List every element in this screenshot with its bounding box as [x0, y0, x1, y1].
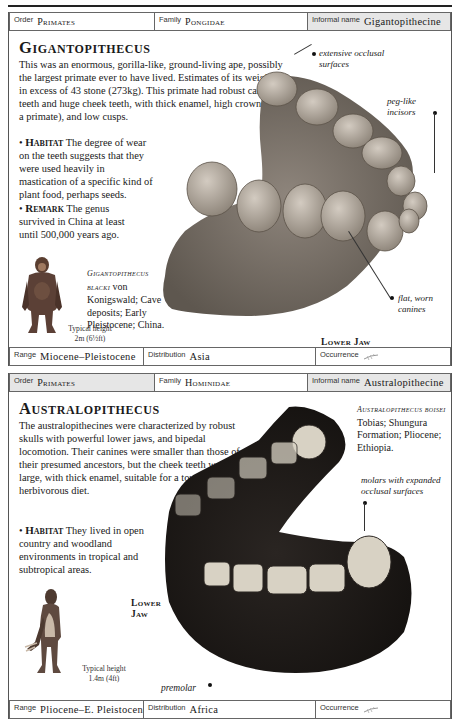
order-value: Primates	[37, 16, 75, 27]
entry-card-australopithecus: Order Primates Family Hominidae Informal…	[8, 373, 452, 719]
habitat-section: • Habitat They lived in open country and…	[19, 524, 149, 576]
order-label: Order	[14, 376, 33, 385]
classification-header: Order Primates Family Hominidae Informal…	[9, 373, 451, 392]
annotation-leader	[434, 113, 435, 173]
genus-title: Australopithecus	[19, 399, 160, 419]
remark-section: • Remark The genus survived in China at …	[19, 202, 127, 241]
family-label: Family	[159, 15, 181, 24]
order-cell: Order Primates	[10, 13, 155, 30]
entry-card-gigantopithecus: Order Primates Family Pongidae Informal …	[8, 12, 452, 366]
order-value: Primates	[37, 377, 75, 388]
distribution-label: Distribution	[148, 350, 186, 359]
annotation-text: extensive occlusal surfaces	[319, 48, 384, 69]
family-label: Family	[159, 376, 181, 385]
range-cell: Range Miocene–Pleistocene	[10, 348, 144, 365]
informal-name-value: Australopithecine	[364, 377, 444, 388]
annotation-dot	[208, 683, 212, 687]
family-cell: Family Pongidae	[155, 13, 308, 30]
fern-frond-icon	[363, 353, 379, 361]
distribution-cell: Distribution Asia	[144, 348, 316, 365]
annotation-dot	[312, 52, 316, 56]
top-rule	[8, 5, 452, 7]
specimen-name: Australopithecus boisei	[357, 405, 446, 414]
annotation-molars: molars with expanded occlusal surfaces	[361, 475, 443, 496]
annotation-premolar-label: premolar	[161, 683, 196, 694]
annotation-occlusal: extensive occlusal surfaces	[319, 48, 389, 69]
annotation-dot	[390, 296, 394, 300]
informal-name-value: Gigantopithecine	[364, 16, 441, 27]
height-label: Typical height	[71, 664, 137, 674]
range-footer: Range Miocene–Pleistocene Distribution A…	[9, 347, 451, 366]
range-value: Pliocene–E. Pleistocene	[40, 704, 144, 715]
annotation-canines: flat, worn canines	[398, 293, 448, 314]
habitat-section: • Habitat The degree of wear on the teet…	[19, 136, 154, 201]
specimen-details: Tobias; Shungura Formation; Pliocene; Et…	[357, 417, 441, 453]
image-label: Lower Jaw	[131, 598, 161, 620]
family-value: Hominidae	[185, 377, 230, 388]
order-cell: Order Primates	[10, 374, 155, 391]
entry-body: Gigantopithecus This was an enormous, go…	[9, 31, 451, 347]
range-label: Range	[14, 350, 36, 359]
australopithecus-figure-icon	[23, 587, 73, 679]
occurrence-cell: Occurrence	[316, 348, 450, 365]
image-label-text: Lower Jaw	[131, 598, 161, 620]
distribution-label: Distribution	[148, 703, 186, 712]
occurrence-label: Occurrence	[320, 350, 359, 359]
annotation-text: peg-like incisors	[387, 96, 416, 117]
occurrence-cell: Occurrence	[316, 701, 450, 718]
annotation-incisors: peg-like incisors	[387, 96, 439, 117]
annotation-leader	[364, 503, 365, 531]
distribution-value: Asia	[190, 351, 210, 362]
annotation-text: premolar	[161, 683, 196, 693]
specimen-caption: Australopithecus boisei Tobias; Shungura…	[357, 403, 452, 454]
occurrence-label: Occurrence	[320, 703, 359, 712]
typical-height: Typical height 1.4m (4ft)	[71, 664, 137, 683]
distribution-cell: Distribution Africa	[144, 701, 316, 718]
height-value: 2m (6½ft)	[59, 334, 121, 344]
habitat-heading: Habitat	[25, 136, 63, 148]
fern-frond-icon	[363, 706, 379, 714]
range-value: Miocene–Pleistocene	[40, 351, 136, 362]
informal-name-label: Informal name	[312, 376, 360, 385]
annotation-leader	[294, 44, 312, 55]
informal-name-cell: Informal name Gigantopithecine	[308, 13, 450, 30]
family-cell: Family Hominidae	[155, 374, 308, 391]
entry-body: Australopithecus The australopithecines …	[9, 392, 451, 700]
classification-header: Order Primates Family Pongidae Informal …	[9, 12, 451, 31]
range-footer: Range Pliocene–E. Pleistocene Distributi…	[9, 700, 451, 719]
range-label: Range	[14, 703, 36, 712]
range-cell: Range Pliocene–E. Pleistocene	[10, 701, 144, 718]
genus-title: Gigantopithecus	[19, 38, 151, 58]
height-value: 1.4m (4ft)	[71, 674, 137, 684]
annotation-text: molars with expanded occlusal surfaces	[361, 475, 441, 496]
order-label: Order	[14, 15, 33, 24]
family-value: Pongidae	[185, 16, 225, 27]
habitat-heading: Habitat	[25, 524, 63, 536]
remark-heading: Remark	[25, 202, 64, 214]
informal-name-cell: Informal name Australopithecine	[308, 374, 450, 391]
annotation-text: flat, worn canines	[398, 293, 433, 314]
informal-name-label: Informal name	[312, 15, 360, 24]
distribution-value: Africa	[190, 704, 219, 715]
